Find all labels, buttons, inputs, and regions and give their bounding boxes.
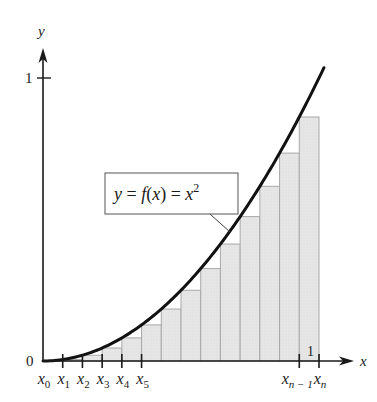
- riemann-rectangle: [260, 186, 280, 361]
- riemann-rectangle: [122, 338, 142, 361]
- partition-label-xn-1: xn − 1: [281, 370, 313, 390]
- riemann-rectangle: [161, 309, 181, 361]
- y-axis-label: y: [36, 23, 45, 39]
- riemann-rectangle: [280, 153, 300, 361]
- partition-label-x4: x4: [116, 370, 130, 390]
- partition-label-x1: x1: [56, 370, 70, 390]
- riemann-rectangle: [102, 348, 122, 361]
- riemann-rectangle: [220, 244, 240, 361]
- y-tick-label-1: 1: [25, 70, 33, 86]
- partition-label-x3: x3: [96, 370, 110, 390]
- riemann-rectangle: [299, 117, 319, 361]
- partition-label-x5: x5: [135, 370, 149, 390]
- riemann-rectangle: [181, 290, 201, 361]
- partition-label-x2: x2: [76, 370, 90, 390]
- riemann-rectangle: [201, 269, 221, 361]
- riemann-rectangle: [240, 217, 260, 361]
- riemann-rectangle: [142, 325, 162, 361]
- origin-label: 0: [26, 353, 34, 369]
- function-label-callout: y = f(x) = x2: [105, 173, 238, 232]
- partition-label-x0: x0: [37, 370, 51, 390]
- riemann-rectangle: [82, 355, 102, 361]
- riemann-sum-figure: y x 1 0 1 x0x1x2x3x4x5xn − 1xn y = f(x) …: [0, 0, 377, 402]
- partition-labels: x0x1x2x3x4x5xn − 1xn: [37, 370, 327, 390]
- partition-label-xn: xn: [313, 370, 327, 390]
- callout-pointer: [210, 214, 230, 232]
- x-tick-label-1: 1: [307, 344, 314, 359]
- function-label: y = f(x) = x2: [112, 181, 199, 205]
- x-axis-label: x: [359, 353, 367, 369]
